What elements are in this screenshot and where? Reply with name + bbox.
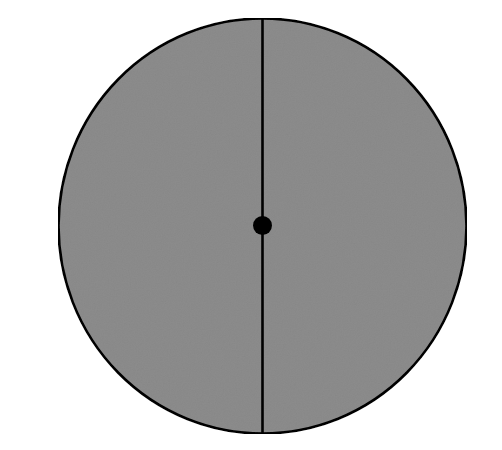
geometric-figure: Shaded circle bisected by a vertical dia…	[0, 0, 502, 450]
center-point-dot	[253, 216, 272, 235]
figure-canvas: Shaded circle bisected by a vertical dia…	[0, 0, 502, 450]
